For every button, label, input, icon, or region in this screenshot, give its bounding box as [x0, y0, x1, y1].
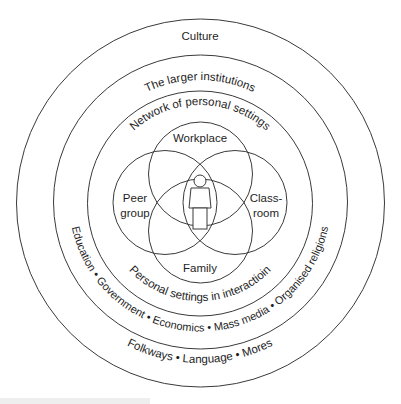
- ring-label-larger-institutions-path: The larger institutions: [143, 70, 258, 94]
- person-head: [194, 175, 206, 187]
- ring-sublabel-culture: Folkways • Language • Mores: [126, 336, 274, 365]
- venn-label-workplace: Workplace: [173, 132, 227, 144]
- venn-label-classroom-line2: room: [253, 207, 279, 219]
- ring-label-network-path: Network of personal settings: [127, 95, 273, 132]
- ring-sublabel-culture-path: Folkways • Language • Mores: [126, 336, 274, 365]
- venn-label-peer-line1: Peer: [123, 192, 147, 204]
- ring-label-culture: Culture: [181, 30, 218, 42]
- ring-label-larger-institutions: The larger institutions: [143, 70, 258, 94]
- venn-label-peer-line2: group: [120, 207, 149, 219]
- venn-label-classroom-line1: Class-: [250, 192, 283, 204]
- caption-fragment: [0, 398, 150, 404]
- person-icon: [189, 175, 211, 229]
- person-legs: [193, 208, 207, 229]
- person-torso: [189, 188, 211, 208]
- ring-label-network: Network of personal settings: [127, 95, 273, 132]
- nested-circles-diagram: Culture The larger institutions Network …: [0, 0, 401, 404]
- venn-label-family: Family: [183, 262, 217, 274]
